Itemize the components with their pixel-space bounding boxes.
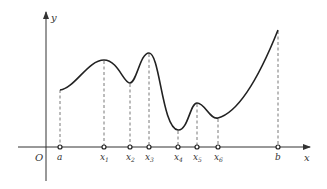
point-label-x2: x2 [126, 152, 135, 163]
x-axis-label: x [304, 152, 310, 163]
point-label-x6: x6 [214, 152, 223, 163]
point-label-x5: x5 [193, 152, 202, 163]
point-label-x3: x3 [145, 152, 154, 163]
dashed-guides [60, 31, 278, 147]
point-label-x4: x4 [174, 152, 183, 163]
point-label-b: b [275, 152, 281, 162]
function-curve [60, 30, 278, 130]
point-label-x1: x1 [100, 152, 109, 163]
point-label-a: a [57, 152, 62, 162]
y-axis-label: y [50, 12, 57, 23]
origin-label: O [35, 152, 43, 163]
function-graph-diagram: y x O a x1 x2 x3 x4 x5 x6 b [0, 0, 327, 189]
